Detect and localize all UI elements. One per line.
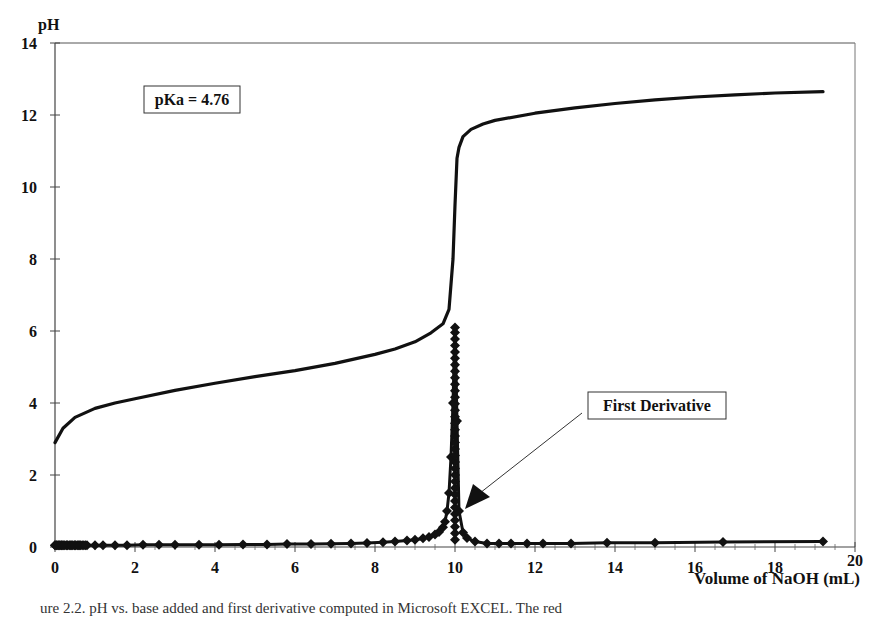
diamond-marker-icon [170,540,180,550]
y-tick-label: 10 [21,179,37,196]
diamond-marker-icon [238,539,248,549]
diamond-marker-icon [378,537,388,547]
diamond-marker-icon [718,537,728,547]
diamond-marker-icon [306,539,316,549]
diamond-marker-icon [122,540,132,550]
axis-ticks: 0246810121402468101214161820 [21,35,863,576]
series-ph-curve [55,92,823,443]
diamond-marker-icon [98,540,108,550]
diamond-marker-icon [262,539,272,549]
diamond-marker-icon [282,539,292,549]
diamond-marker-icon [402,536,412,546]
x-tick-label: 2 [131,559,139,576]
ph-curve-line [55,92,823,443]
diamond-marker-icon [138,540,148,550]
diamond-marker-icon [390,537,400,547]
diamond-marker-icon [154,540,164,550]
y-tick-label: 8 [29,251,37,268]
x-tick-label: 10 [447,559,463,576]
diamond-marker-icon [818,537,828,547]
y-tick-label: 6 [29,323,37,340]
first-derivative-label: First Derivative [603,397,711,414]
figure-caption: ure 2.2. pH vs. base added and first der… [40,600,884,617]
x-tick-label: 20 [847,552,863,569]
x-tick-label: 12 [527,559,543,576]
diamond-marker-icon [110,540,120,550]
y-tick-label: 12 [21,107,37,124]
y-axis-title: pH [38,16,60,34]
diamond-marker-icon [650,538,660,548]
diamond-marker-icon [602,538,612,548]
derivative-line [55,327,823,545]
pka-label: pKa = 4.76 [155,91,229,109]
y-tick-label: 2 [29,467,37,484]
x-tick-label: 4 [211,559,219,576]
x-tick-label: 0 [51,559,59,576]
first-derivative-annotation: First Derivative [465,392,726,509]
y-tick-label: 14 [21,35,37,52]
x-tick-label: 6 [291,559,299,576]
arrow-shaft [480,413,582,493]
y-tick-label: 0 [29,539,37,556]
diamond-marker-icon [194,540,204,550]
x-tick-label: 14 [607,559,623,576]
diamond-marker-icon [450,327,460,337]
series-first-derivative [50,322,828,550]
pka-annotation: pKa = 4.76 [144,86,240,113]
x-tick-label: 8 [371,559,379,576]
diamond-marker-icon [410,535,420,545]
x-axis-title: Volume of NaOH (mL) [694,569,860,588]
y-tick-label: 4 [29,395,37,412]
